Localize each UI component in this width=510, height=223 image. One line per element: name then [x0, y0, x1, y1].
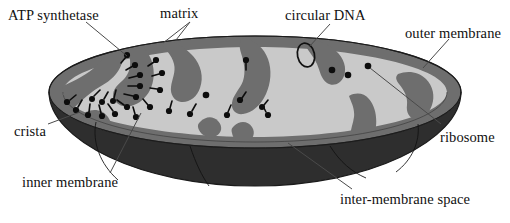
ribosome — [345, 72, 352, 79]
ribosome — [329, 67, 336, 74]
leader-atp-synthetase — [86, 22, 127, 56]
label-atp-synthetase: ATP synthetase — [8, 8, 99, 23]
label-matrix: matrix — [160, 6, 198, 21]
label-outer-membrane: outer membrane — [405, 26, 501, 41]
label-crista: crista — [14, 124, 46, 139]
label-inter-membrane-space: inter-membrane space — [340, 192, 470, 207]
ribosome — [203, 92, 210, 99]
label-inner-membrane: inner membrane — [22, 175, 118, 190]
leader-outer-membrane — [423, 39, 449, 68]
label-circular-dna: circular DNA — [285, 8, 366, 23]
label-ribosome: ribosome — [440, 130, 495, 145]
mitochondrion-figure: ATP synthetase matrix circular DNA outer… — [0, 0, 510, 223]
